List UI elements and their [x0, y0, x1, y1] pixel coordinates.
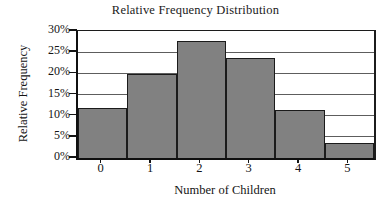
x-tick-label-5: 5 [332, 161, 362, 176]
x-tick-label-2: 2 [184, 161, 214, 176]
y-tick-label-15: 15% [28, 86, 70, 101]
x-tick-label-1: 1 [135, 161, 165, 176]
bar-3 [226, 58, 275, 158]
y-tick-label-20: 20% [28, 64, 70, 79]
y-tick-label-5: 5% [28, 128, 70, 143]
bar-0 [78, 108, 127, 158]
x-tick-label-3: 3 [234, 161, 264, 176]
bar-1 [127, 74, 176, 158]
x-axis-title: Number of Children [60, 183, 390, 198]
plot-area [76, 30, 376, 160]
gridline-25 [78, 52, 374, 53]
y-tick-label-0: 0% [28, 149, 70, 164]
y-tick-label-25: 25% [28, 43, 70, 58]
x-tick-label-4: 4 [283, 161, 313, 176]
plot-inner [78, 31, 374, 158]
y-tick-label-10: 10% [28, 107, 70, 122]
y-tick-label-30: 30% [28, 22, 70, 37]
y-axis-tick-label-group: 0%5%10%15%20%25%30% [26, 0, 70, 205]
bar-5 [325, 143, 374, 158]
bar-2 [177, 41, 226, 158]
x-tick-label-0: 0 [86, 161, 116, 176]
chart-screenshot: Relative Frequency Distribution Relative… [0, 0, 391, 205]
bar-4 [275, 110, 324, 158]
